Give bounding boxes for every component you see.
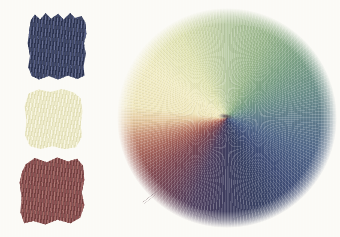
wheel-center-smudge <box>214 111 237 123</box>
artwork-canvas <box>0 0 340 237</box>
swatch-dark-red <box>19 156 85 226</box>
swatch-pale-yellow <box>24 87 83 151</box>
swatch-dark-blue <box>27 11 87 81</box>
